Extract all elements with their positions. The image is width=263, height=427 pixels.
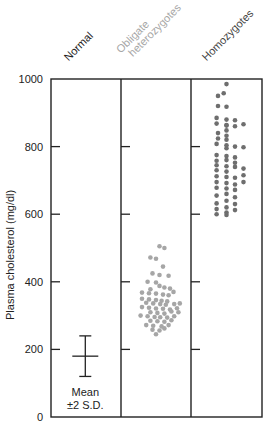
data-point (162, 246, 167, 251)
data-point (144, 323, 149, 328)
data-point (214, 116, 219, 121)
data-point (172, 314, 177, 319)
data-point (214, 207, 219, 212)
data-point (157, 328, 162, 333)
data-point (169, 318, 174, 323)
data-point (138, 313, 143, 318)
y-axis-label: Plasma cholesterol (mg/dl) (4, 196, 16, 320)
data-point (150, 271, 155, 276)
data-point (178, 301, 183, 306)
data-point (224, 205, 229, 210)
data-point (224, 158, 229, 163)
data-point (224, 154, 229, 159)
data-point (224, 164, 229, 169)
data-point (145, 314, 150, 319)
data-point (224, 82, 229, 87)
data-point (214, 212, 219, 217)
data-point (157, 273, 162, 278)
data-point (216, 94, 221, 99)
y-tick-label: 800 (25, 141, 43, 153)
data-point (148, 318, 153, 323)
data-point (224, 134, 229, 139)
data-point (154, 306, 159, 311)
data-point (224, 143, 229, 148)
data-point (224, 128, 229, 133)
data-point (154, 280, 159, 285)
data-point (233, 118, 238, 123)
data-point (233, 165, 238, 170)
data-point (147, 291, 152, 296)
data-point (224, 192, 229, 197)
data-point (216, 131, 221, 136)
data-point (150, 328, 155, 333)
data-point (214, 142, 219, 147)
data-point (158, 302, 163, 307)
data-point (176, 310, 181, 315)
data-point (155, 319, 160, 324)
data-point (158, 315, 163, 320)
data-point (224, 169, 229, 174)
data-point (147, 306, 152, 311)
data-point (154, 332, 159, 337)
data-point (155, 311, 160, 316)
data-point (140, 290, 145, 295)
data-point (233, 144, 238, 149)
data-point (233, 175, 238, 180)
data-point (224, 186, 229, 191)
data-point (214, 121, 219, 126)
data-point (221, 91, 226, 96)
data-point (233, 124, 238, 129)
data-point (166, 323, 171, 328)
data-point (214, 201, 219, 206)
data-point (233, 208, 238, 213)
data-point (161, 307, 166, 312)
y-tick-label: 200 (25, 343, 43, 355)
data-point (140, 305, 145, 310)
data-point (233, 188, 238, 193)
data-point (148, 287, 153, 292)
data-point (233, 202, 238, 207)
data-point (214, 174, 219, 179)
data-point (241, 166, 246, 171)
data-point (171, 290, 176, 295)
data-point (148, 255, 153, 260)
data-point (166, 273, 171, 278)
data-point (157, 244, 162, 249)
data-point (175, 306, 180, 311)
data-point (164, 303, 169, 308)
plot-series (72, 82, 246, 377)
data-point (233, 155, 238, 160)
data-point (214, 159, 219, 164)
data-point (224, 123, 229, 128)
data-point (162, 285, 167, 290)
data-point (224, 198, 229, 203)
data-point (169, 309, 174, 314)
data-point (168, 286, 173, 291)
data-point (145, 280, 150, 285)
y-tick-label: 1000 (19, 73, 43, 85)
data-point (224, 104, 229, 109)
data-point (216, 136, 221, 141)
data-point (144, 301, 149, 306)
data-point (162, 326, 167, 331)
data-point (216, 104, 221, 109)
data-point (241, 145, 246, 150)
data-point (214, 163, 219, 168)
data-point (224, 213, 229, 218)
data-point (241, 180, 246, 185)
annotation-line: ±2 S.D. (55, 399, 115, 411)
data-point (224, 181, 229, 186)
data-point (233, 195, 238, 200)
data-point (140, 296, 145, 301)
annotation-line: Mean (55, 386, 115, 398)
y-tick-label: 0 (37, 411, 43, 423)
y-axis-ticks: 02004006008001000 (19, 73, 200, 423)
y-tick-label: 400 (25, 276, 43, 288)
data-point (151, 301, 156, 306)
data-point (161, 264, 166, 269)
data-point (148, 310, 153, 315)
data-point (214, 186, 219, 191)
data-point (154, 257, 159, 262)
data-point (233, 182, 238, 187)
plot-border (51, 79, 262, 417)
